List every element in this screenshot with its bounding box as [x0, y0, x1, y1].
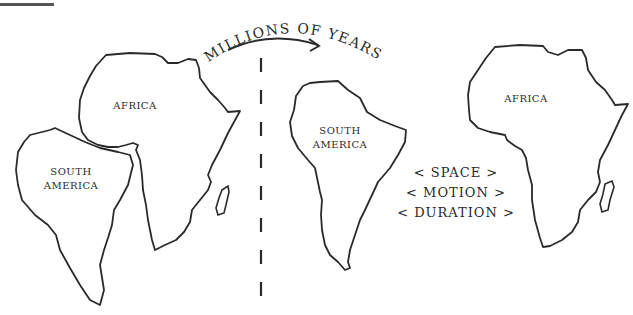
madagascar-outline-before	[216, 186, 229, 215]
africa-label-before: AFRICA	[100, 99, 170, 113]
africa-label-after: AFRICA	[491, 92, 561, 106]
properties-list: < SPACE > < MOTION > < DURATION >	[388, 163, 524, 223]
caption-text: MILLIONS OF YEARS	[201, 20, 386, 65]
madagascar-outline-after	[600, 181, 614, 212]
south-america-label-after: SOUTH AMERICA	[305, 124, 375, 152]
south-america-outline-before	[16, 128, 133, 305]
property-motion: < MOTION >	[388, 183, 524, 203]
property-space: < SPACE >	[388, 163, 524, 183]
africa-outline-before	[79, 53, 240, 250]
diagram-drawing: MILLIONS OF YEARS	[0, 0, 633, 315]
continental-drift-diagram: MILLIONS OF YEARS AFRICA SOUTH AMERICA S…	[0, 0, 633, 315]
property-duration: < DURATION >	[388, 203, 524, 223]
south-america-label-before: SOUTH AMERICA	[36, 165, 106, 193]
